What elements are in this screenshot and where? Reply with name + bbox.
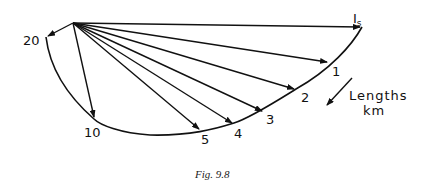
label-5: 5	[201, 132, 209, 147]
figure-caption: Fig. 9.8	[194, 168, 230, 180]
label-3: 3	[266, 112, 274, 127]
legend-lengths: Lengths	[349, 88, 408, 103]
phasor-2	[73, 23, 294, 89]
phasor-10	[73, 23, 94, 117]
legend-km: km	[363, 103, 385, 118]
phasor-is	[73, 23, 360, 27]
phasor-20	[48, 23, 73, 36]
label-20: 20	[23, 33, 40, 48]
label-is: Is	[353, 11, 362, 28]
label-10: 10	[84, 125, 101, 140]
phasor-4	[73, 23, 232, 123]
label-1: 1	[332, 64, 340, 79]
label-2: 2	[301, 90, 309, 105]
label-4: 4	[234, 126, 242, 141]
phasor-locus-diagram: Is 1 2 3 4 5 10 20 Lengths km Fig. 9.8	[0, 0, 429, 189]
phasor-3	[73, 23, 262, 111]
phasor-1	[73, 23, 327, 62]
phasor-lines	[48, 23, 360, 129]
